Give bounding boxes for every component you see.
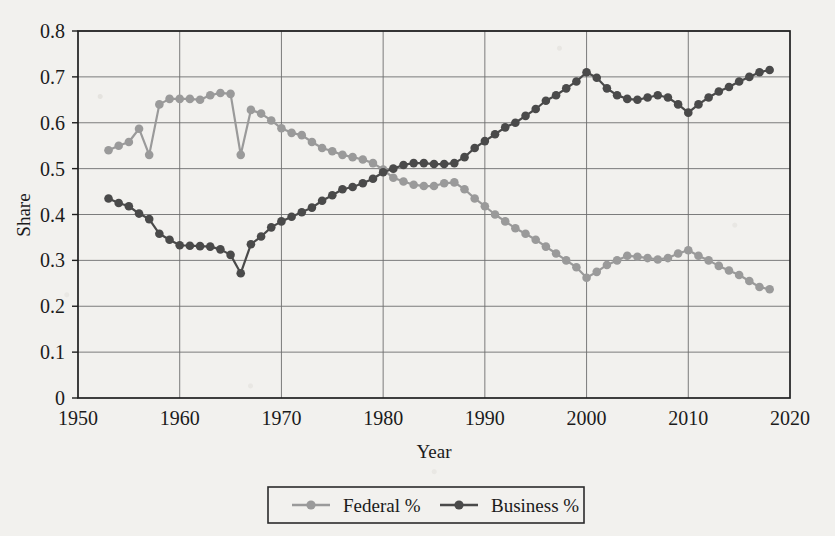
data-point [582,68,591,77]
tick-marks [72,31,78,398]
data-point [470,144,479,153]
data-point [226,90,235,99]
data-point [369,159,378,168]
data-point [704,93,713,102]
data-point [399,177,408,186]
data-point [745,277,754,286]
data-point [430,182,439,191]
data-point [491,130,500,139]
x-tick-label: 2010 [668,407,708,429]
data-point [653,255,662,264]
data-point [623,95,632,104]
y-tick-label: 0.5 [40,158,65,180]
x-tick-label: 1990 [465,407,505,429]
data-point [206,242,215,251]
data-point [603,84,612,93]
y-tick-label: 0.1 [40,341,65,363]
data-point [613,91,622,100]
data-point [287,129,296,138]
data-point [603,261,612,270]
data-point [450,159,459,168]
data-point [297,131,306,140]
data-point [542,96,551,105]
data-point [247,106,256,115]
data-point [664,93,673,102]
data-point [643,93,652,102]
y-tick-label: 0.2 [40,295,65,317]
data-point [694,100,703,109]
data-point [145,215,154,224]
data-point [430,160,439,169]
data-point [633,96,642,105]
data-point [338,151,347,160]
y-tick-label: 0.3 [40,249,65,271]
data-point [715,87,724,96]
data-point [399,161,408,170]
data-point [186,95,195,104]
data-point [165,235,174,244]
data-point [308,203,317,212]
data-point [440,160,449,169]
data-point [104,194,113,203]
data-point [765,66,774,75]
chart-legend: Federal % Business % [268,487,584,523]
data-point [308,138,317,147]
data-point [755,68,764,77]
data-point [409,159,418,168]
data-point [226,251,235,260]
data-point [521,229,530,238]
data-point [175,241,184,250]
series-layer [104,66,774,294]
data-point [715,262,724,271]
data-point [765,285,774,294]
data-point [277,124,286,133]
series-federal [104,89,774,294]
data-point [592,73,601,82]
data-point [135,124,144,133]
data-point [440,179,449,188]
data-point [745,73,754,82]
data-point [552,249,561,258]
legend-label-federal: Federal % [343,495,421,516]
data-point [684,246,693,255]
data-point [277,217,286,226]
data-point [511,118,520,127]
data-point [460,153,469,162]
data-point [389,174,398,183]
data-point [196,242,205,251]
share-line-chart: 00.10.20.30.40.50.60.70.8 19501960197019… [0,0,835,536]
data-point [287,212,296,221]
data-point [572,263,581,272]
x-tick-label: 1980 [363,407,403,429]
data-point [318,144,327,153]
data-point [542,242,551,251]
x-axis-title: Year [416,441,452,462]
y-tick-label: 0.7 [40,66,65,88]
data-point [196,96,205,105]
data-point [735,271,744,280]
data-point [155,229,164,238]
data-point [328,191,337,200]
x-tick-label: 1970 [261,407,301,429]
data-point [491,210,500,219]
data-point [247,240,256,249]
data-point [562,256,571,265]
data-point [389,164,398,173]
legend-marker-business [454,500,463,509]
x-tick-label: 1960 [160,407,200,429]
data-point [409,180,418,189]
legend-label-business: Business % [491,495,579,516]
data-point [125,202,134,211]
data-point [664,254,673,263]
data-point [694,251,703,260]
data-point [643,254,652,263]
data-point [531,105,540,114]
data-point [236,151,245,160]
data-point [420,159,429,168]
data-point [704,256,713,265]
data-point [481,137,490,146]
data-point [155,100,164,109]
data-point [114,199,123,208]
data-point [481,202,490,211]
data-point [613,256,622,265]
